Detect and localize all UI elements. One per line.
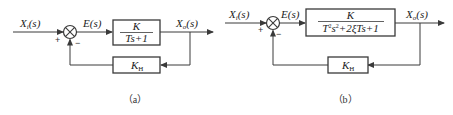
diagram-b: Xi(s) + − E(s) K T2s2+2ξTs+1 Xo(s) KH （b… [225,8,444,105]
input-label-b: Xi(s) [228,8,250,22]
minus-sign-b: − [276,29,281,39]
caption-b: （b） [333,94,358,105]
plus-sign-b: + [258,25,263,35]
forward-numerator-b: K [346,9,355,21]
minus-sign-a: − [75,38,80,48]
output-label-b: Xo(s) [405,8,428,22]
caption-a: （a） [123,94,147,105]
error-label-a: E(s) [82,17,102,30]
feedback-line-out-a [161,32,190,65]
forward-denominator-b: T2s2+2ξTs+1 [322,22,378,35]
input-label-a: Xi(s) [19,17,41,31]
forward-denominator-a: Ts+1 [125,32,147,44]
error-label-b: E(s) [280,8,300,21]
output-label-a: Xo(s) [175,17,198,31]
plus-sign-a: + [55,35,60,45]
summing-junction-b [267,17,280,30]
diagram-a: Xi(s) + − E(s) K Ts+1 Xo(s) KH （a） [13,17,213,105]
block-diagrams: Xi(s) + − E(s) K Ts+1 Xo(s) KH （a） [0,0,453,115]
summing-junction-a [64,26,77,39]
forward-numerator-a: K [132,20,141,32]
